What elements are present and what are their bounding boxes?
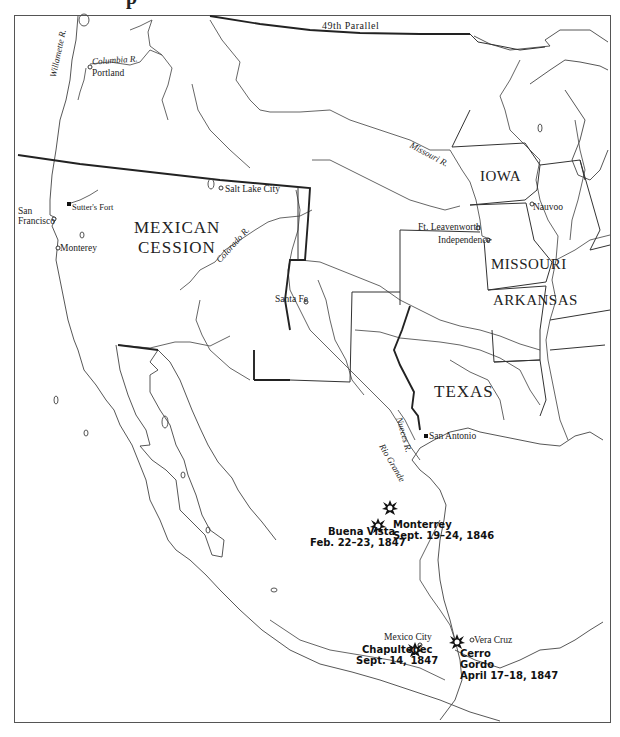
salt-lake-city-label: Salt Lake City xyxy=(225,184,280,194)
49th-parallel-label: 49th Parallel xyxy=(322,20,379,31)
monterey-label: Monterey xyxy=(60,243,97,253)
gulf-island-2 xyxy=(206,527,210,533)
minnesota-border xyxy=(452,110,470,147)
arkansas-label: ARKANSAS xyxy=(493,292,578,309)
willamette-river xyxy=(78,68,86,100)
sutters-fort-marker xyxy=(67,202,71,206)
cedros-island xyxy=(84,430,88,436)
battle-buena-vista-date: Feb. 22–23, 1847 xyxy=(310,537,406,548)
pecos-river xyxy=(318,280,364,395)
battle-date: April 17–18, 1847 xyxy=(460,670,558,681)
battle-cerro-gordo-label: Cerro Gordo April 17–18, 1847 xyxy=(460,648,558,681)
42nd-parallel-border xyxy=(18,155,298,187)
gulf-island xyxy=(181,472,185,478)
mexican-cession-label-1: MEXICAN xyxy=(134,218,220,238)
channel-island xyxy=(54,396,58,404)
lake-michigan-shore xyxy=(530,60,608,84)
map-canvas xyxy=(0,0,620,737)
sutters-fort-label: Sutter's Fort xyxy=(72,202,113,212)
san-francisco-label-2: Francisco xyxy=(18,216,55,226)
san-antonio-label: San Antonio xyxy=(429,431,476,441)
lake-tahoe xyxy=(80,232,84,238)
battle-chapultepec-date: Sept. 14, 1847 xyxy=(356,655,438,666)
lake-island xyxy=(538,124,542,132)
ft-leavenworth-label: Ft. Leavenworth xyxy=(418,222,481,232)
texas-claimed-border xyxy=(394,306,420,430)
gadsden-border xyxy=(254,350,290,380)
independence-label: Independence xyxy=(438,235,491,245)
lake-michigan-west xyxy=(565,90,608,180)
great-salt-lake xyxy=(208,179,214,189)
missouri-river xyxy=(210,20,492,240)
new-mexico-border xyxy=(290,292,400,382)
nauvoo-label: Nauvoo xyxy=(533,202,563,212)
battle-date: Sept. 19–24, 1846 xyxy=(393,530,494,541)
texas-label: TEXAS xyxy=(434,382,494,402)
iowa-label: IOWA xyxy=(480,168,521,185)
battle-chapultepec-name: Chapultepec xyxy=(362,644,432,655)
vera-cruz-label: Vera Cruz xyxy=(474,635,512,645)
san-antonio-marker xyxy=(424,434,428,438)
pacific-island-mx xyxy=(271,588,277,592)
baja-coast-west xyxy=(116,345,224,557)
mexico-city-label: Mexico City xyxy=(384,632,432,642)
san-francisco-label-1: San xyxy=(18,206,32,216)
platte-river xyxy=(312,160,460,210)
santa-fe-label: Santa Fe xyxy=(275,294,308,304)
missouri-label: MISSOURI xyxy=(491,256,567,273)
battle-buena-vista-name: Buena Vista xyxy=(328,526,372,537)
missouri-border xyxy=(470,203,552,290)
battle-monterrey-label: Monterrey Sept. 19–24, 1846 xyxy=(393,519,494,541)
pacific-coastline xyxy=(50,16,500,721)
battle-name-1: Cerro xyxy=(460,648,558,659)
mexican-cession-label-2: CESSION xyxy=(138,238,216,258)
battle-name-2: Gordo xyxy=(460,659,558,670)
utah-river xyxy=(192,84,250,168)
salt-lake-city-marker xyxy=(219,186,223,190)
vancouver-island xyxy=(79,14,89,26)
mississippi-river xyxy=(500,60,568,440)
explosion-icon xyxy=(382,500,398,515)
illinois-river xyxy=(570,120,585,240)
battle-name: Monterrey xyxy=(393,519,494,530)
portland-label: Portland xyxy=(92,68,124,78)
